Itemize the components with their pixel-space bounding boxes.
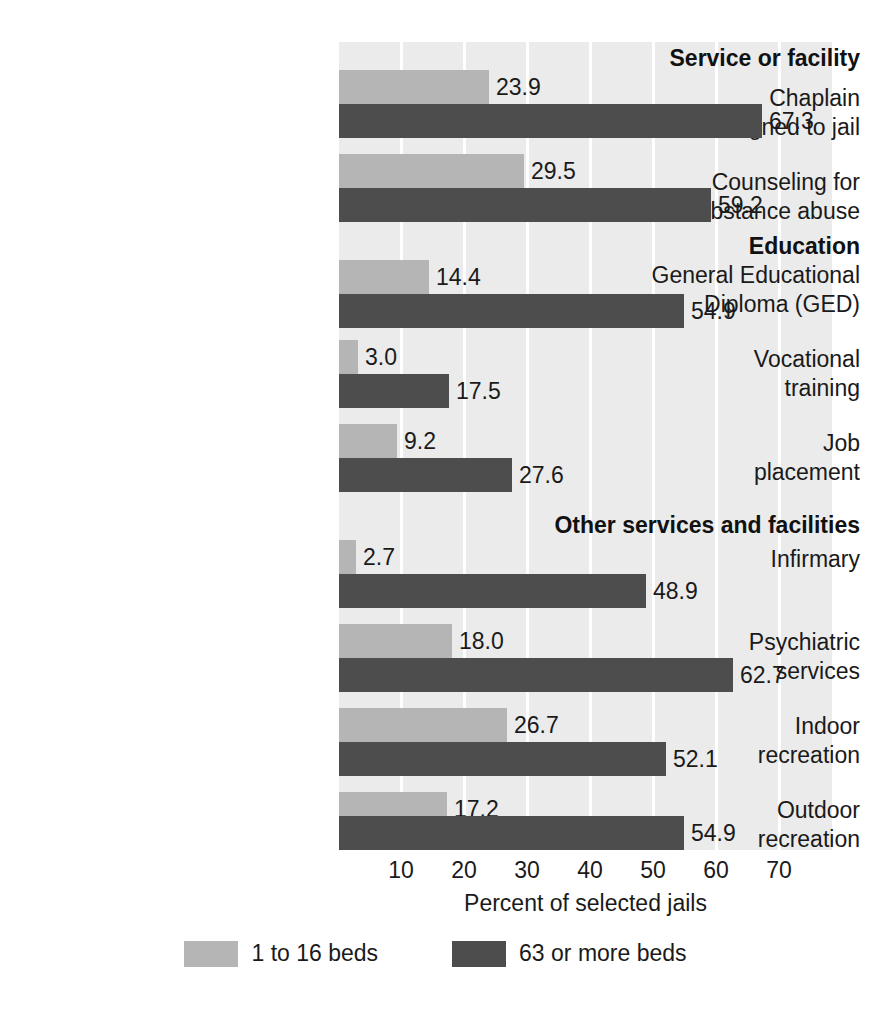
legend-swatch-dark-icon	[452, 941, 506, 967]
bar-value-infirmary-dark: 48.9	[646, 574, 698, 608]
bar-ged-dark	[339, 294, 684, 328]
bar-outdoor-dark	[339, 816, 684, 850]
bar-value-counseling-light: 29.5	[524, 154, 576, 188]
bar-value-outdoor-dark: 54.9	[684, 816, 736, 850]
bar-job-dark	[339, 458, 512, 492]
section-header-education: Education	[532, 232, 871, 261]
bar-psychiatric-dark	[339, 658, 733, 692]
bar-value-psychiatric-dark: 62.7	[733, 658, 785, 692]
bar-ged-light	[339, 260, 429, 294]
section-header-other: Other services and facilities	[532, 511, 871, 540]
legend-label-1-to-16-beds: 1 to 16 beds	[251, 940, 378, 967]
bar-value-indoor-light: 26.7	[507, 708, 559, 742]
x-tick-10: 10	[388, 856, 414, 884]
bar-indoor-light	[339, 708, 507, 742]
bar-indoor-dark	[339, 742, 666, 776]
section-header-service: Service or facility	[532, 44, 871, 73]
legend-item-1-to-16-beds: 1 to 16 beds	[184, 940, 378, 967]
bar-chart: Service or facility Chaplain assigned to…	[0, 0, 871, 1027]
legend-item-63-or-more-beds: 63 or more beds	[452, 940, 686, 967]
x-tick-70: 70	[766, 856, 792, 884]
bar-value-psychiatric-light: 18.0	[452, 624, 504, 658]
bar-value-infirmary-light: 2.7	[356, 540, 395, 574]
bar-value-vocational-dark: 17.5	[449, 374, 501, 408]
x-tick-40: 40	[577, 856, 603, 884]
bar-chaplain-dark	[339, 104, 762, 138]
bar-value-counseling-dark: 59.2	[711, 188, 763, 222]
x-tick-30: 30	[514, 856, 540, 884]
x-tick-50: 50	[640, 856, 666, 884]
legend: 1 to 16 beds 63 or more beds	[0, 940, 871, 967]
bar-job-light	[339, 424, 397, 458]
bar-chaplain-light	[339, 70, 489, 104]
bar-value-ged-dark: 54.9	[684, 294, 736, 328]
bar-counseling-dark	[339, 188, 711, 222]
bar-value-ged-light: 14.4	[429, 260, 481, 294]
legend-label-63-or-more-beds: 63 or more beds	[519, 940, 686, 967]
bar-value-job-dark: 27.6	[512, 458, 564, 492]
category-label-infirmary: Infirmary	[532, 545, 871, 574]
x-axis-title: Percent of selected jails	[339, 890, 832, 917]
bar-infirmary-dark	[339, 574, 646, 608]
category-label-job: Job placement	[532, 429, 871, 487]
x-tick-20: 20	[451, 856, 477, 884]
bar-value-job-light: 9.2	[397, 424, 436, 458]
bar-counseling-light	[339, 154, 524, 188]
bar-vocational-dark	[339, 374, 449, 408]
legend-swatch-light-icon	[184, 941, 238, 967]
bar-infirmary-light	[339, 540, 356, 574]
bar-vocational-light	[339, 340, 358, 374]
bar-value-chaplain-light: 23.9	[489, 70, 541, 104]
category-label-vocational: Vocational training	[532, 345, 871, 403]
bar-value-indoor-dark: 52.1	[666, 742, 718, 776]
bar-psychiatric-light	[339, 624, 452, 658]
bar-value-vocational-light: 3.0	[358, 340, 397, 374]
x-tick-60: 60	[703, 856, 729, 884]
bar-value-chaplain-dark: 67.3	[762, 104, 814, 138]
